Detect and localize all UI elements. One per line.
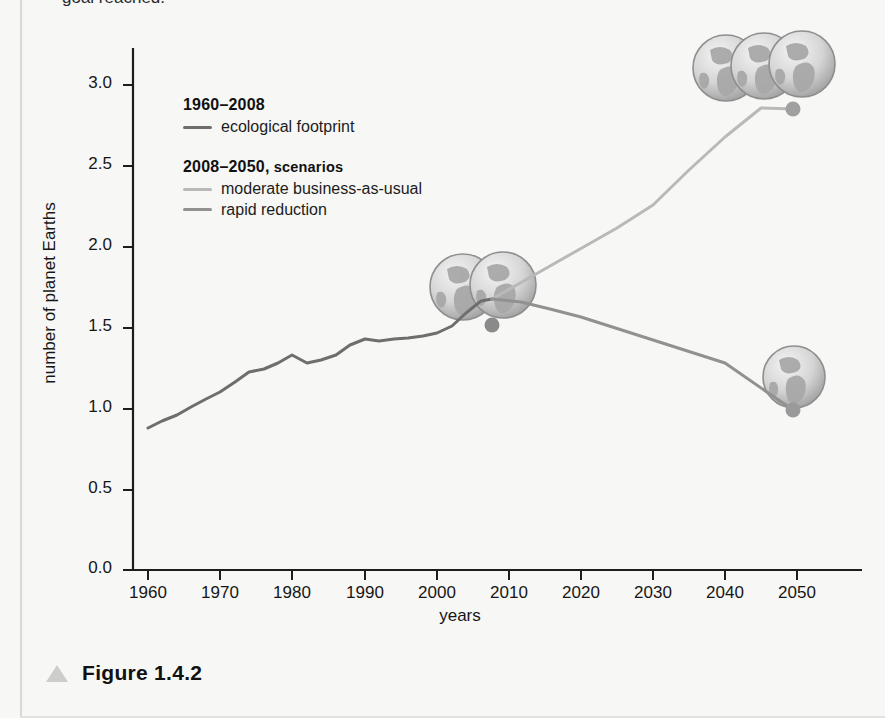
marker-branch-point-2008 <box>485 318 500 333</box>
earths-cluster-one <box>763 346 825 408</box>
xtick-label-1980: 1980 <box>257 583 327 603</box>
ytick-label-0.0: 0.0 <box>52 558 112 578</box>
legend-label-rapid-reduction: rapid reduction <box>221 201 327 219</box>
chart-svg <box>0 0 885 660</box>
figure-root: goal reached. <box>0 0 885 718</box>
xtick-label-2000: 2000 <box>402 583 472 603</box>
ytick-label-3.0: 3.0 <box>52 73 112 93</box>
legend-label-moderate-business-as-usual: moderate business-as-usual <box>221 180 422 198</box>
chart-plot-area: 3.0 2.5 2.0 1.5 1.0 0.5 0.0 1960 1970 19… <box>0 0 885 660</box>
marker-bau-endpoint-2050 <box>786 102 801 117</box>
xtick-label-2030: 2030 <box>618 583 688 603</box>
xtick-label-1990: 1990 <box>330 583 400 603</box>
legend-heading-scenarios-text: 2008–2050, <box>183 158 270 175</box>
series-moderate-business-as-usual <box>492 108 793 299</box>
triangle-up-icon <box>46 665 68 682</box>
legend-heading-scenarios: 2008–2050, scenarios <box>183 158 422 176</box>
legend-label-ecological-footprint: ecological footprint <box>221 118 354 136</box>
legend-swatch-ecological-footprint <box>183 126 212 129</box>
series-ecological-footprint <box>148 299 492 428</box>
ytick-label-2.0: 2.0 <box>52 235 112 255</box>
figure-caption-text: Figure 1.4.2 <box>82 661 202 685</box>
legend-heading-historical: 1960–2008 <box>183 96 422 114</box>
earths-cluster-three <box>693 31 835 101</box>
marker-rapid-endpoint-2050 <box>786 403 801 418</box>
legend-swatch-moderate-business-as-usual <box>183 188 212 191</box>
xtick-label-1960: 1960 <box>113 583 183 603</box>
ytick-label-2.5: 2.5 <box>52 154 112 174</box>
xtick-label-2010: 2010 <box>474 583 544 603</box>
xtick-label-2050: 2050 <box>762 583 832 603</box>
xtick-label-1970: 1970 <box>185 583 255 603</box>
legend-item-ecological-footprint[interactable]: ecological footprint <box>183 118 422 136</box>
x-axis-title: years <box>380 606 540 626</box>
earths-cluster-two <box>430 252 536 320</box>
series-rapid-reduction <box>492 299 793 410</box>
legend-heading-scenarios-suffix: scenarios <box>270 159 344 175</box>
xtick-label-2020: 2020 <box>546 583 616 603</box>
legend-swatch-rapid-reduction <box>183 208 212 211</box>
figure-caption: Figure 1.4.2 <box>46 661 202 685</box>
xtick-label-2040: 2040 <box>690 583 760 603</box>
legend-item-rapid-reduction[interactable]: rapid reduction <box>183 201 422 219</box>
y-axis-title: number of planet Earths <box>40 183 60 403</box>
ytick-label-1.0: 1.0 <box>52 397 112 417</box>
legend-item-moderate-business-as-usual[interactable]: moderate business-as-usual <box>183 180 422 198</box>
chart-legend: 1960–2008 ecological footprint 2008–2050… <box>183 96 422 221</box>
legend-heading-historical-text: 1960–2008 <box>183 96 265 113</box>
ytick-label-0.5: 0.5 <box>52 478 112 498</box>
ytick-label-1.5: 1.5 <box>52 316 112 336</box>
